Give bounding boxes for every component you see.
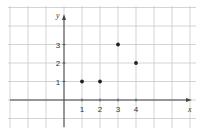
tick-labels: 1234123	[56, 41, 139, 115]
data-point	[116, 43, 120, 47]
y-tick-label: 3	[56, 41, 61, 50]
scatter-chart: x y 1234123	[0, 0, 204, 133]
x-axis-arrow-icon	[186, 98, 192, 102]
x-tick-label: 3	[116, 105, 121, 114]
data-point	[98, 80, 102, 84]
y-axis-arrow-icon	[62, 14, 66, 20]
x-axis-label: x	[187, 105, 192, 114]
data-point	[134, 61, 138, 65]
x-tick-label: 1	[80, 105, 85, 114]
x-tick-label: 4	[134, 105, 139, 114]
x-tick-label: 2	[98, 105, 103, 114]
data-point	[80, 80, 84, 84]
y-tick-label: 1	[56, 78, 61, 87]
y-axis-label: y	[55, 11, 60, 20]
y-tick-label: 2	[56, 59, 61, 68]
